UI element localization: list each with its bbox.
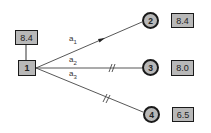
edge-1-2 xyxy=(36,22,142,68)
edge-label-a2: a2 xyxy=(69,55,77,66)
arrow-icon xyxy=(98,38,105,43)
edge-label-a1: a1 xyxy=(69,34,77,45)
node-2-value-box: 8.4 xyxy=(171,13,194,28)
edge-1-4 xyxy=(36,68,143,112)
node-4: 4 xyxy=(143,106,160,123)
source-node: 1 xyxy=(18,60,36,76)
source-value-box: 8.4 xyxy=(15,30,38,45)
edge-label-a3: a3 xyxy=(69,69,77,80)
double-slash-icon xyxy=(103,94,107,102)
node-2: 2 xyxy=(142,12,159,29)
node-3: 3 xyxy=(142,59,159,76)
node-3-value-box: 8.0 xyxy=(171,60,194,76)
node-4-value-box: 6.5 xyxy=(172,107,194,122)
